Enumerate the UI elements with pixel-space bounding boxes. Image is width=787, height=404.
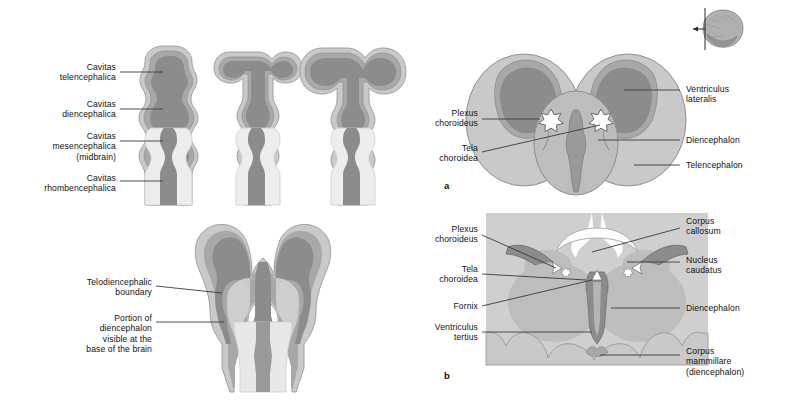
label-portion-of-diencephalon: Portion ofdiencephalonvisible at thebase… (54, 313, 152, 355)
label-diencephalon-a: Diencephalon (686, 135, 784, 145)
label-corpus-mammillare: Corpusmammillare(diencephalon) (686, 346, 786, 377)
telodiencephalic-boundary-diagram (156, 224, 331, 392)
label-corpus-callosum: Corpuscallosum (686, 216, 786, 237)
label-plexus-choroideus-a: Plexuschoroideus (414, 108, 478, 129)
panel-b-section (482, 213, 708, 365)
label-telodiencephalic-boundary: Telodiencephalicboundary (56, 277, 152, 298)
label-plexus-choroideus-b: Plexuschoroideus (412, 224, 478, 245)
label-ventriculus-tertius: Ventriculustertius (408, 322, 478, 343)
label-telencephalon: Telencephalon (686, 160, 784, 170)
panel-a-section (466, 54, 686, 195)
label-tela-choroidea-a: Telachoroidea (414, 143, 478, 164)
label-cavitas-rhombencephalica: Cavitasrhombencephalica (8, 173, 116, 194)
label-fornix: Fornix (412, 301, 478, 311)
label-diencephalon-b: Diencephalon (686, 303, 786, 313)
label-cavitas-telencephalica: Cavitastelencephalica (12, 62, 116, 83)
label-ventriculus-lateralis: Ventriculuslateralis (686, 84, 784, 105)
label-cavitas-mesencephalica: Cavitasmesencephalica(midbrain) (12, 131, 116, 162)
brain-orientation-thumbnail (693, 8, 743, 50)
stage-2-brain-vesicles (214, 52, 302, 205)
ventricular-development-series (120, 46, 406, 205)
label-tela-choroidea-b: Telachoroidea (412, 264, 478, 285)
panel-id-b: b (444, 370, 450, 381)
label-nucleus-caudatus: Nucleuscaudatus (686, 255, 786, 276)
anatomy-figure: Cavitastelencephalica Cavitasdiencephali… (0, 0, 787, 404)
panel-id-a: a (444, 180, 449, 191)
stage-3-cerebral-hemispheres (300, 48, 406, 205)
label-cavitas-diencephalica: Cavitasdiencephalica (12, 99, 116, 120)
